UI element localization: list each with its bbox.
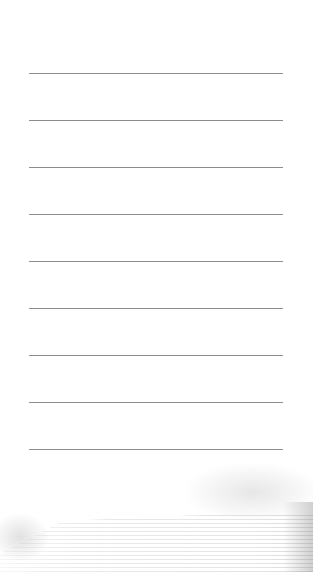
writing-line <box>29 355 283 356</box>
writing-line <box>29 73 283 74</box>
watermark-edge-shadow <box>283 502 313 572</box>
writing-line <box>29 308 283 309</box>
writing-line <box>29 449 283 450</box>
writing-line <box>29 402 283 403</box>
lined-page <box>0 0 313 572</box>
writing-line <box>29 261 283 262</box>
writing-line <box>29 167 283 168</box>
stairs-watermark-image <box>0 452 313 572</box>
writing-line <box>29 214 283 215</box>
writing-line <box>29 120 283 121</box>
